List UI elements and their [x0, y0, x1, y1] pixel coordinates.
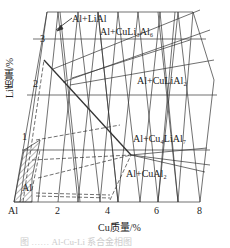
x-tick-4: 4 — [105, 206, 110, 216]
x-tick-al: Al — [8, 206, 18, 216]
y-tick-1: 1 — [22, 132, 27, 142]
x-tick-6: 6 — [154, 206, 159, 216]
region-label-al-culial2: Al+CuLiAl₂ — [137, 76, 187, 86]
region-label-al-cual2: Al+CuAl₂ — [126, 169, 167, 179]
figure-caption: 图 …… Al-Cu-Li 系合金相图 — [20, 235, 132, 248]
x-axis-label: Cu质量/% — [98, 219, 141, 234]
x-tick-2: 2 — [55, 206, 60, 216]
region-label-al-cu4lial7: Al+Cu₄LiAl₇ — [133, 134, 186, 144]
y-tick-2: 2 — [33, 79, 38, 89]
y-axis-label: Li质量/% — [2, 58, 17, 98]
region-label-al: Al — [22, 183, 32, 193]
y-tick-3: 3 — [40, 34, 45, 44]
region-label-al-culi3al6: Al+CuLi₃Al₆ — [100, 27, 153, 37]
x-tick-8: 8 — [197, 206, 202, 216]
region-label-al-lial: Al+LiAl — [72, 14, 107, 24]
